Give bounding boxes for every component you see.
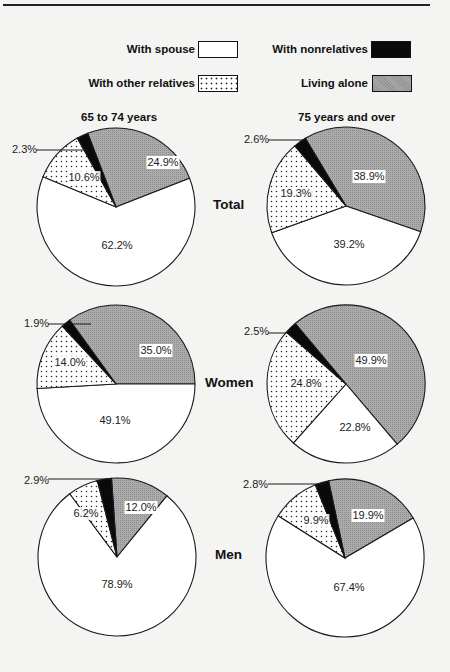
slice-label-living-alone: 35.0%	[140, 344, 171, 356]
pie-men-65-74: 12.0%78.9%6.2%2.9%	[24, 474, 196, 636]
slice-label-with-other-relatives: 14.0%	[54, 356, 85, 368]
slice-label-living-alone: 19.9%	[352, 509, 383, 521]
slice-label-with-spouse: 67.4%	[333, 581, 364, 593]
slice-label-with-spouse: 78.9%	[101, 578, 132, 590]
slice-label-living-alone: 24.9%	[147, 156, 178, 168]
slice-label-with-other-relatives: 10.6%	[68, 171, 99, 183]
slice-label-living-alone: 12.0%	[125, 501, 156, 513]
slice-label-living-alone: 38.9%	[353, 170, 384, 182]
pie-men-75-over: 19.9%67.4%9.9%2.8%	[243, 478, 424, 637]
slice-label-with-other-relatives: 19.3%	[280, 187, 311, 199]
pie-total-75-over: 38.9%39.2%19.3%2.6%	[244, 127, 425, 285]
pie-total-65-74: 24.9%62.2%10.6%2.3%	[12, 128, 195, 286]
slice-label-with-other-relatives: 9.9%	[303, 514, 328, 526]
slice-label-with-nonrelatives: 2.8%	[243, 478, 268, 490]
pie-charts: 24.9%62.2%10.6%2.3% 38.9%39.2%19.3%2.6% …	[0, 0, 450, 672]
slice-label-with-spouse: 22.8%	[339, 421, 370, 433]
slice-label-with-spouse: 39.2%	[333, 238, 364, 250]
slice-label-with-nonrelatives: 2.5%	[244, 325, 269, 337]
slice-label-with-nonrelatives: 1.9%	[24, 317, 49, 329]
slice-label-with-nonrelatives: 2.6%	[244, 133, 269, 145]
slice-label-with-spouse: 62.2%	[101, 239, 132, 251]
slice-label-living-alone: 49.9%	[355, 354, 386, 366]
slice-label-with-spouse: 49.1%	[99, 414, 130, 426]
slice-label-with-other-relatives: 6.2%	[73, 507, 98, 519]
slice-label-with-other-relatives: 24.8%	[290, 377, 321, 389]
pie-women-75-over: 49.9%22.8%24.8%2.5%	[244, 305, 425, 463]
pie-women-65-74: 35.0%49.1%14.0%1.9%	[24, 305, 195, 463]
slice-label-with-nonrelatives: 2.3%	[12, 143, 37, 155]
slice-label-with-nonrelatives: 2.9%	[24, 474, 49, 486]
